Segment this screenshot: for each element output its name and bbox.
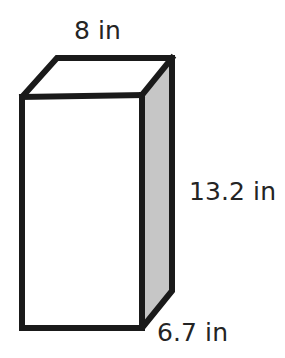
- prism-edge-front-top: [22, 95, 142, 97]
- prism-right-face: [142, 58, 172, 328]
- figure-root: 8 in 13.2 in 6.7 in: [0, 0, 285, 358]
- dimension-label-width: 8 in: [74, 18, 121, 43]
- prism-front-face: [22, 95, 142, 328]
- dimension-label-depth: 6.7 in: [157, 320, 228, 345]
- dimension-label-height: 13.2 in: [189, 179, 276, 204]
